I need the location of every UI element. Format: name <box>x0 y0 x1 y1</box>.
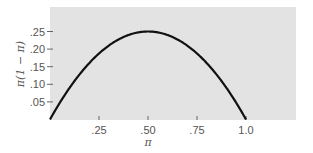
x-tick-label: .75 <box>189 124 204 136</box>
y-axis: .05.10.15.20.25 <box>30 26 53 108</box>
x-tick-label: 1.0 <box>238 124 253 136</box>
y-tick-label: .25 <box>30 26 45 38</box>
y-tick-label: .10 <box>30 78 45 90</box>
y-tick-label: .15 <box>30 61 45 73</box>
x-tick-label: .50 <box>140 124 155 136</box>
y-axis-title: π(1 − π) <box>14 41 27 88</box>
x-tick-label: .25 <box>91 124 106 136</box>
plot-area <box>50 7 296 120</box>
x-axis-title: π <box>143 136 152 149</box>
y-tick-label: .05 <box>30 96 45 108</box>
chart: .05.10.15.20.25 .25.50.751.0 π π(1 − π) <box>0 0 313 153</box>
y-tick-label: .20 <box>30 43 45 55</box>
